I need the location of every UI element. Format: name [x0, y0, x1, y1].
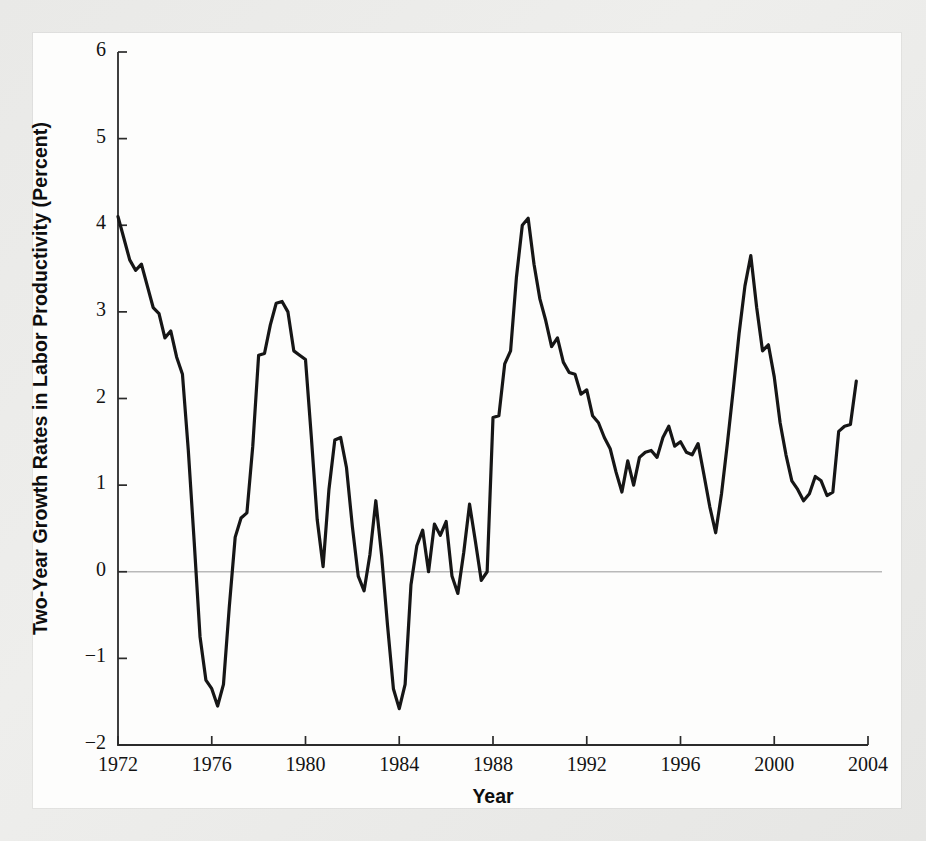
axis-spines [118, 52, 868, 745]
page-background: Two-Year Growth Rates in Labor Productiv… [0, 0, 926, 841]
x-tick-label: 1972 [78, 753, 158, 776]
x-tick-label: 1976 [172, 753, 252, 776]
line-chart [0, 0, 926, 841]
x-tick-label: 2000 [734, 753, 814, 776]
x-tick-label: 1980 [266, 753, 346, 776]
y-tick-label: 2 [62, 385, 106, 408]
y-tick-label: 0 [62, 558, 106, 581]
y-tick-label: 6 [62, 38, 106, 61]
y-tick-label: 3 [62, 298, 106, 321]
data-line-series-0 [118, 217, 856, 709]
y-tick-label: −2 [62, 731, 106, 754]
x-tick-label: 1992 [547, 753, 627, 776]
y-tick-label: −1 [62, 644, 106, 667]
x-tick-label: 1988 [453, 753, 533, 776]
x-tick-label: 2004 [828, 753, 908, 776]
y-axis-label: Two-Year Growth Rates in Labor Productiv… [29, 29, 52, 729]
y-tick-label: 4 [62, 211, 106, 234]
x-tick-label: 1984 [359, 753, 439, 776]
x-tick-label: 1996 [641, 753, 721, 776]
y-tick-label: 1 [62, 471, 106, 494]
x-axis-label: Year [118, 785, 868, 808]
y-tick-label: 5 [62, 125, 106, 148]
